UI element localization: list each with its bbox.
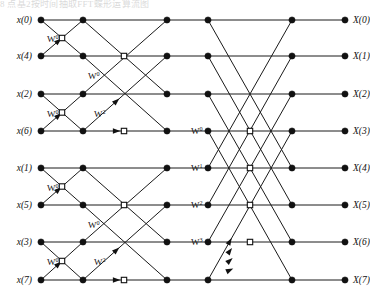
input-label-1: x(4)	[16, 51, 32, 62]
butterfly-node	[38, 128, 44, 134]
crossing-node	[121, 202, 126, 207]
input-label-6: x(3)	[16, 237, 32, 248]
output-label-layer: X(0)X(1)X(2)X(3)X(4)X(5)X(6)X(7)	[352, 15, 370, 286]
input-label-5: x(5)	[16, 200, 32, 211]
crossing-node	[121, 128, 126, 133]
twiddle-exponent: 0	[56, 108, 59, 115]
twiddle-exponent: 0	[200, 125, 203, 132]
butterfly-node	[38, 53, 44, 59]
twiddle-exponent: 2	[103, 256, 106, 263]
twiddle-exponent: 2	[103, 108, 106, 115]
svg-text:W2: W2	[191, 199, 203, 210]
output-label-6: X(6)	[352, 237, 370, 248]
direction-arrow	[225, 269, 233, 275]
butterfly-node	[289, 165, 295, 171]
butterfly-node	[205, 202, 211, 208]
svg-text:W2: W2	[94, 108, 106, 119]
twiddle-factor-label: W2	[191, 199, 203, 210]
output-label-3: X(3)	[352, 126, 370, 137]
butterfly-node	[38, 165, 44, 171]
butterfly-node	[342, 91, 348, 97]
twiddle-exponent: 3	[200, 236, 203, 243]
butterfly-node	[205, 53, 211, 59]
butterfly-node	[164, 277, 170, 283]
butterfly-node	[289, 91, 295, 97]
butterfly-node	[38, 239, 44, 245]
input-label-layer: x(0)x(4)x(2)x(6)x(1)x(5)x(3)x(7)	[16, 15, 32, 286]
twiddle-factor-label: W2	[94, 108, 106, 119]
butterfly-node	[289, 53, 295, 59]
crossing-node	[247, 202, 252, 207]
butterfly-node	[164, 91, 170, 97]
butterfly-node	[38, 17, 44, 23]
svg-text:W3: W3	[191, 236, 203, 247]
output-label-4: X(4)	[352, 163, 370, 174]
butterfly-node	[164, 239, 170, 245]
butterfly-node	[342, 165, 348, 171]
crossing-node	[59, 110, 64, 115]
svg-text:W1: W1	[191, 162, 203, 173]
butterfly-node	[342, 202, 348, 208]
output-label-1: X(1)	[352, 51, 370, 62]
input-label-3: x(6)	[16, 126, 32, 137]
butterfly-node	[80, 128, 86, 134]
butterfly-node	[164, 128, 170, 134]
crossing-node	[59, 35, 64, 40]
svg-text:W2: W2	[94, 256, 106, 267]
output-label-2: X(2)	[352, 89, 370, 100]
direction-arrow	[113, 277, 121, 282]
butterfly-node	[205, 17, 211, 23]
butterfly-node	[80, 277, 86, 283]
butterfly-node	[38, 202, 44, 208]
input-label-2: x(2)	[16, 89, 32, 100]
crossing-node	[247, 128, 252, 133]
twiddle-exponent: 0	[97, 219, 100, 226]
input-label-7: x(7)	[16, 275, 32, 286]
input-label-0: x(0)	[16, 15, 32, 26]
butterfly-node	[289, 17, 295, 23]
crossing-node	[247, 239, 252, 244]
butterfly-node	[80, 165, 86, 171]
crossing-node	[59, 184, 64, 189]
butterfly-node	[164, 165, 170, 171]
crossing-node	[121, 53, 126, 58]
svg-text:W0: W0	[88, 70, 100, 81]
butterfly-node	[205, 277, 211, 283]
twiddle-exponent: 2	[200, 199, 203, 206]
crossing-node	[247, 165, 252, 170]
twiddle-label-layer: W0W0W0W0W0W2W0W2W0W1W2W3	[47, 33, 203, 267]
twiddle-exponent: 0	[97, 70, 100, 77]
butterfly-node	[342, 53, 348, 59]
output-label-0: X(0)	[352, 15, 370, 26]
twiddle-exponent: 0	[56, 182, 59, 189]
fft-flow-graph: 8 点基2按时间抽取FFT蝶形运算流图 W0W0W0W0W0W2W0W2W0W1…	[0, 0, 370, 294]
input-label-4: x(1)	[16, 163, 32, 174]
butterfly-node	[38, 91, 44, 97]
twiddle-factor-label: W2	[94, 256, 106, 267]
twiddle-exponent: 1	[200, 162, 203, 169]
clipped-header-text: 8 点基2按时间抽取FFT蝶形运算流图	[0, 0, 370, 9]
output-label-5: X(5)	[352, 200, 370, 211]
butterfly-node	[289, 202, 295, 208]
butterfly-node	[205, 91, 211, 97]
twiddle-factor-label: W1	[191, 162, 203, 173]
butterfly-node	[80, 202, 86, 208]
butterfly-node	[205, 239, 211, 245]
twiddle-factor-label: W3	[191, 236, 203, 247]
butterfly-node	[289, 128, 295, 134]
butterfly-node	[38, 277, 44, 283]
butterfly-node	[164, 53, 170, 59]
butterfly-node	[342, 277, 348, 283]
crossing-node	[121, 277, 126, 282]
direction-arrow	[225, 258, 232, 265]
butterfly-node	[342, 239, 348, 245]
twiddle-factor-label: W0	[191, 125, 203, 136]
output-label-7: X(7)	[352, 275, 370, 286]
twiddle-factor-label: W0	[88, 70, 100, 81]
butterfly-node	[164, 17, 170, 23]
butterfly-node	[289, 277, 295, 283]
butterfly-node	[164, 202, 170, 208]
arrow-layer	[54, 38, 233, 282]
butterfly-node	[342, 17, 348, 23]
butterfly-node	[205, 128, 211, 134]
